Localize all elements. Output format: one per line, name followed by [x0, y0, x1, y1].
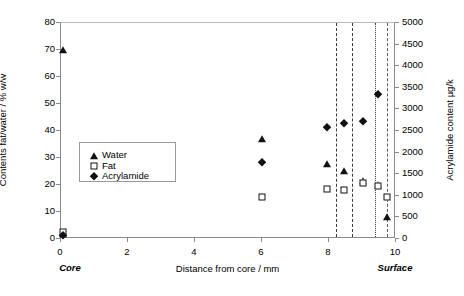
y-axis-right-title: Acrylamide content µg/k	[444, 79, 455, 181]
x-axis-tick-mark	[127, 238, 128, 242]
y-axis-right-tick-label: 1000	[402, 190, 436, 200]
marker-water	[90, 152, 98, 159]
legend-item-label: Water	[102, 150, 127, 160]
y-axis-right-tick-mark	[395, 195, 399, 196]
marker-acrylamide	[258, 158, 266, 166]
x-axis-tick-mark	[194, 238, 195, 242]
marker-water	[258, 135, 266, 142]
acrylamide-distribution-chart: Contents fat/water / % w/w Acrylamide co…	[0, 0, 464, 296]
y-axis-left-tick-label: 10	[27, 206, 55, 216]
marker-fat	[91, 162, 98, 169]
marker-acrylamide	[340, 119, 348, 127]
marker-fat	[341, 187, 348, 194]
interface-line	[375, 23, 376, 237]
y-axis-left-tick-label: 70	[27, 44, 55, 54]
marker-acrylamide	[90, 172, 98, 180]
marker-water	[323, 160, 331, 167]
marker-fat	[359, 179, 366, 186]
interface-line	[336, 23, 337, 237]
interface-line	[387, 23, 388, 237]
legend-item-label: Acrylamide	[102, 171, 149, 181]
y-axis-left-tick-label: 80	[27, 17, 55, 27]
y-axis-right-tick-mark	[395, 216, 399, 217]
surface-annotation: Surface	[360, 262, 430, 273]
legend: WaterFatAcrylamide	[79, 142, 176, 182]
y-axis-right-tick-label: 2000	[402, 147, 436, 157]
marker-water	[59, 46, 67, 53]
marker-water	[383, 214, 391, 221]
x-axis-tick-mark	[395, 238, 396, 242]
interface-line	[352, 23, 353, 237]
x-axis-tick-mark	[60, 238, 61, 242]
y-axis-right-tick-mark	[395, 65, 399, 66]
y-axis-right-tick-mark	[395, 173, 399, 174]
x-axis-tick-label: 0	[40, 247, 80, 257]
legend-item-label: Fat	[102, 161, 116, 171]
y-axis-right-tick-label: 1500	[402, 168, 436, 178]
y-axis-left-tick-label: 0	[27, 233, 55, 243]
y-axis-right-tick-label: 5000	[402, 17, 436, 27]
y-axis-right-tick-mark	[395, 44, 399, 45]
x-axis-tick-label: 8	[308, 247, 348, 257]
x-axis-title: Distance from core / mm	[60, 263, 395, 274]
y-axis-right-tick-label: 3000	[402, 104, 436, 114]
y-axis-left-tick-label: 30	[27, 152, 55, 162]
y-axis-right-tick-mark	[395, 152, 399, 153]
x-axis-tick-label: 2	[107, 247, 147, 257]
y-axis-right-tick-mark	[395, 22, 399, 23]
marker-fat	[324, 186, 331, 193]
y-axis-left-tick-label: 20	[27, 179, 55, 189]
marker-fat	[259, 194, 266, 201]
x-axis-tick-mark	[328, 238, 329, 242]
marker-acrylamide	[359, 117, 367, 125]
y-axis-left-title: Contents fat/water / % w/w	[0, 74, 8, 186]
marker-fat	[383, 194, 390, 201]
plot-area	[60, 22, 395, 238]
x-axis-tick-label: 10	[375, 247, 415, 257]
y-axis-right-tick-label: 0	[402, 233, 436, 243]
y-axis-left-tick-label: 40	[27, 125, 55, 135]
y-axis-right-tick-label: 2500	[402, 125, 436, 135]
x-axis-tick-label: 4	[174, 247, 214, 257]
y-axis-right-tick-mark	[395, 87, 399, 88]
marker-acrylamide	[323, 123, 331, 131]
y-axis-right-tick-label: 4000	[402, 60, 436, 70]
y-axis-right-tick-label: 3500	[402, 82, 436, 92]
core-annotation: Core	[40, 262, 100, 273]
y-axis-left-tick-label: 60	[27, 71, 55, 81]
y-axis-left-tick-label: 50	[27, 98, 55, 108]
x-axis-tick-label: 6	[241, 247, 281, 257]
y-axis-right-tick-mark	[395, 108, 399, 109]
marker-fat	[374, 182, 381, 189]
x-axis-tick-mark	[261, 238, 262, 242]
y-axis-right-tick-label: 4500	[402, 39, 436, 49]
y-axis-right-tick-mark	[395, 130, 399, 131]
marker-water	[340, 168, 348, 175]
y-axis-right-tick-label: 500	[402, 212, 436, 222]
